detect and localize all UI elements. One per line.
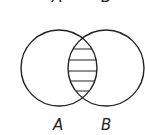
bottom-label-a: A [53, 118, 63, 133]
venn-diagram: A B A B [0, 0, 145, 135]
bottom-label-b: B [101, 118, 111, 133]
set-b-circle [68, 30, 144, 106]
top-label-b: B [101, 0, 111, 5]
top-label-a: A [52, 0, 62, 5]
venn-svg [0, 0, 145, 135]
set-a-circle [21, 30, 97, 106]
